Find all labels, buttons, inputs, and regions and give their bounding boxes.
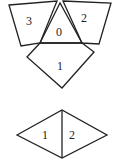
label-2-bottom: 2 bbox=[69, 128, 75, 142]
label-3: 3 bbox=[26, 14, 32, 28]
bottom-figure: 1 2 bbox=[17, 110, 107, 158]
label-0: 0 bbox=[56, 25, 62, 39]
label-1-top: 1 bbox=[57, 59, 63, 73]
diagram-canvas: 3 2 0 1 1 2 bbox=[0, 0, 119, 159]
top-figure: 3 2 0 1 bbox=[9, 1, 111, 88]
label-1-bottom: 1 bbox=[42, 128, 48, 142]
label-2-top: 2 bbox=[81, 11, 87, 25]
